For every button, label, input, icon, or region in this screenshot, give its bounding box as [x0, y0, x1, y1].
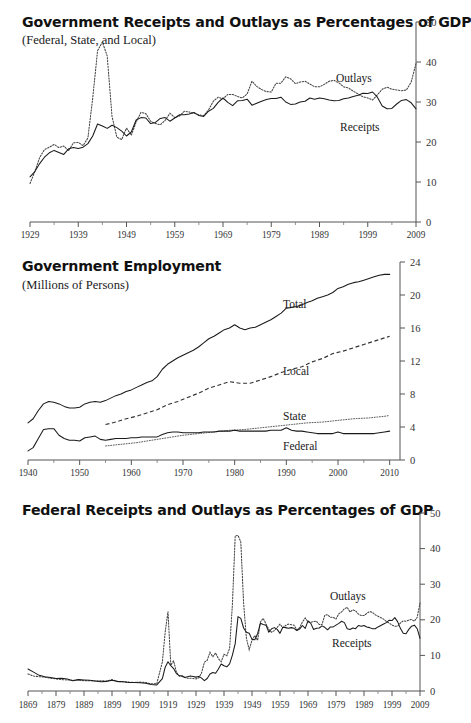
x-axis-tick-label: 1899 — [103, 700, 122, 710]
y-axis-tick-label: 50 — [426, 17, 437, 28]
x-axis-tick-label: 2009 — [407, 230, 426, 240]
chart-panel-federal-receipts-outlays: Federal Receipts and Outlays as Percenta… — [0, 495, 468, 723]
x-axis-tick-label: 1869 — [19, 700, 38, 710]
y-axis-tick-label: 16 — [410, 323, 421, 334]
y-axis-tick-label: 50 — [430, 508, 441, 519]
line-chart-1: 1929193919491959196919791989199920090102… — [0, 0, 468, 250]
series-line-outlays — [28, 535, 420, 683]
chart-panel-government-receipts-outlays: Government Receipts and Outlays as Perce… — [0, 0, 468, 250]
chart-plot-area-3: 1869187918891899190919191929193919491959… — [0, 495, 468, 723]
y-axis-tick-label: 10 — [430, 650, 441, 661]
y-axis-tick-label: 20 — [430, 614, 441, 625]
x-axis-tick-label: 1969 — [299, 700, 318, 710]
x-axis-tick-label: 1939 — [69, 230, 88, 240]
x-axis-tick-label: 1949 — [117, 230, 136, 240]
series-label-outlays: Outlays — [330, 590, 366, 603]
series-line-outlays — [30, 42, 416, 184]
x-axis-tick-label: 2009 — [411, 700, 430, 710]
x-axis-tick-label: 1989 — [355, 700, 374, 710]
x-axis-tick-label: 1969 — [214, 230, 233, 240]
x-axis-tick-label: 1909 — [131, 700, 150, 710]
x-axis-tick-label: 1979 — [327, 700, 346, 710]
y-axis-tick-label: 20 — [410, 290, 421, 301]
y-axis-tick-label: 40 — [430, 543, 441, 554]
x-axis-tick-label: 1990 — [277, 468, 296, 478]
y-axis-tick-label: 4 — [410, 422, 416, 433]
series-label-local: Local — [283, 365, 309, 377]
series-label-state: State — [283, 410, 306, 422]
series-line-federal — [28, 428, 390, 451]
x-axis-tick-label: 1979 — [262, 230, 281, 240]
y-axis-tick-label: 30 — [426, 97, 437, 108]
line-chart-2: 1940195019601970198019902000201004812162… — [0, 250, 468, 495]
x-axis-tick-label: 1960 — [122, 468, 141, 478]
x-axis-tick-label: 1929 — [21, 230, 40, 240]
x-axis-tick-label: 1989 — [310, 230, 329, 240]
series-label-federal: Federal — [283, 440, 317, 452]
x-axis-tick-label: 1879 — [47, 700, 66, 710]
x-axis-tick-label: 1959 — [271, 700, 290, 710]
y-axis-tick-label: 8 — [410, 389, 415, 400]
series-label-total: Total — [283, 298, 306, 310]
chart-plot-area-2: 1940195019601970198019902000201004812162… — [0, 250, 468, 495]
x-axis-tick-label: 1999 — [383, 700, 402, 710]
line-chart-3: 1869187918891899190919191929193919491959… — [0, 495, 468, 723]
series-line-receipts — [28, 617, 420, 685]
x-axis-tick-label: 1939 — [215, 700, 234, 710]
x-axis-tick-label: 1999 — [358, 230, 377, 240]
x-axis-tick-label: 1929 — [187, 700, 206, 710]
y-axis-tick-label: 10 — [426, 177, 437, 188]
x-axis-tick-label: 2010 — [380, 468, 399, 478]
y-axis-tick-label: 0 — [410, 455, 415, 466]
y-axis-tick-label: 0 — [426, 217, 431, 228]
y-axis-tick-label: 24 — [410, 257, 421, 268]
x-axis-tick-label: 1950 — [70, 468, 89, 478]
x-axis-tick-label: 1959 — [165, 230, 184, 240]
x-axis-tick-label: 1919 — [159, 700, 178, 710]
series-label-receipts: Receipts — [332, 637, 372, 650]
y-axis-tick-label: 30 — [430, 579, 441, 590]
x-axis-tick-label: 1940 — [19, 468, 38, 478]
y-axis-tick-label: 40 — [426, 57, 437, 68]
x-axis-tick-label: 1970 — [174, 468, 193, 478]
x-axis-tick-label: 1980 — [225, 468, 244, 478]
series-line-local — [106, 336, 390, 424]
series-label-outlays: Outlays — [336, 72, 372, 85]
x-axis-tick-label: 1889 — [75, 700, 94, 710]
chart-plot-area-1: 1929193919491959196919791989199920090102… — [0, 0, 468, 250]
series-line-total — [28, 274, 390, 423]
y-axis-tick-label: 20 — [426, 137, 437, 148]
x-axis-tick-label: 1949 — [243, 700, 262, 710]
x-axis-tick-label: 2000 — [329, 468, 348, 478]
chart-panel-government-employment: Government Employment (Millions of Perso… — [0, 250, 468, 495]
series-line-receipts — [30, 92, 416, 177]
y-axis-tick-label: 0 — [430, 686, 435, 697]
series-label-receipts: Receipts — [340, 121, 380, 134]
y-axis-tick-label: 12 — [410, 356, 421, 367]
